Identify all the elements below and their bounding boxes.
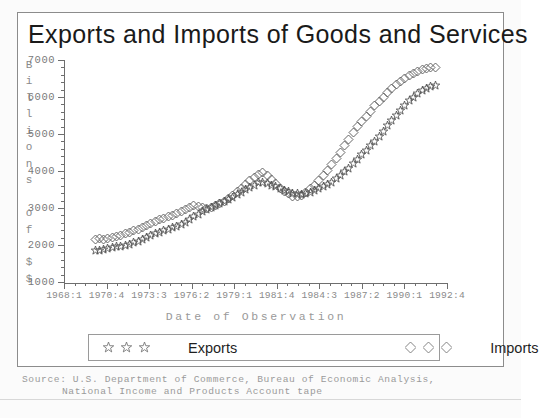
y-axis-minor-tick [61, 267, 64, 268]
data-point-imports [327, 160, 336, 169]
x-axis-tick-label: 1979:1 [216, 290, 252, 301]
data-point-imports [142, 221, 151, 230]
data-point-imports [91, 235, 100, 244]
data-point-imports [250, 173, 259, 182]
data-point-exports [340, 167, 349, 176]
data-point-imports [426, 63, 435, 72]
diamond-marker [441, 339, 452, 357]
x-axis-minor-tick [213, 283, 214, 286]
data-point-exports [172, 222, 181, 231]
legend-entry-exports[interactable]: Exports [103, 339, 237, 357]
data-point-exports [198, 207, 207, 216]
x-axis-tick [192, 283, 193, 289]
data-point-exports [366, 141, 375, 150]
x-axis-tick-label: 1970:4 [89, 290, 125, 301]
data-point-exports [344, 164, 353, 173]
data-point-exports [220, 197, 229, 206]
x-axis-minor-tick [309, 283, 310, 286]
data-point-imports [418, 65, 427, 74]
data-point-exports [379, 127, 388, 136]
data-point-exports [233, 190, 242, 199]
x-axis-minor-tick [170, 283, 171, 286]
data-point-exports [241, 185, 250, 194]
data-point-exports [297, 190, 306, 199]
data-point-imports [121, 229, 130, 238]
data-point-exports [207, 203, 216, 212]
data-point-imports [306, 184, 315, 193]
x-axis-minor-tick [256, 283, 257, 286]
x-axis-tick [404, 283, 405, 289]
source-line-1: Source: U.S. Department of Commerce, Bur… [22, 374, 435, 385]
data-point-imports [125, 228, 134, 237]
data-point-exports [362, 146, 371, 155]
diamond-marker [405, 339, 416, 357]
x-axis-title: Date of Observation [64, 310, 448, 323]
data-point-exports [418, 86, 427, 95]
x-axis-tick-label: 1973:3 [131, 290, 167, 301]
data-point-imports [237, 184, 246, 193]
data-point-imports [267, 175, 276, 184]
data-point-imports [362, 112, 371, 121]
data-point-exports [258, 178, 267, 187]
y-axis-minor-tick [61, 104, 64, 105]
data-point-exports [280, 186, 289, 195]
data-point-exports [254, 178, 263, 187]
y-axis-minor-tick [61, 215, 64, 216]
data-point-imports [146, 219, 155, 228]
y-axis-tick [58, 60, 64, 61]
star-icon [103, 339, 150, 357]
x-axis-tick-label: 1992:4 [429, 290, 465, 301]
y-axis-tick-label: 6000 [28, 91, 55, 103]
data-point-imports [396, 77, 405, 86]
chart-legend: ExportsImports [88, 334, 440, 361]
data-point-imports [413, 67, 422, 76]
x-axis-tick [234, 283, 235, 289]
data-point-imports [155, 215, 164, 224]
data-point-imports [353, 122, 362, 131]
data-point-imports [336, 148, 345, 157]
data-point-imports [280, 187, 289, 196]
x-axis-minor-tick [202, 283, 203, 286]
data-point-imports [310, 181, 319, 190]
x-axis-tick [447, 283, 448, 289]
data-point-exports [413, 89, 422, 98]
y-axis-minor-tick [61, 67, 64, 68]
data-point-imports [276, 184, 285, 193]
source-line-2: National Income and Products Account tap… [22, 386, 502, 398]
data-point-imports [189, 201, 198, 210]
data-point-imports [314, 176, 323, 185]
data-point-exports [129, 238, 138, 247]
data-point-imports [245, 176, 254, 185]
x-axis-minor-tick [224, 283, 225, 286]
y-axis-minor-tick [61, 238, 64, 239]
data-point-imports [409, 69, 418, 78]
data-point-imports [258, 168, 267, 177]
data-point-exports [327, 178, 336, 187]
data-point-imports [383, 88, 392, 97]
y-axis-label-char: l [26, 109, 33, 120]
data-point-imports [228, 191, 237, 200]
legend-entry-imports[interactable]: Imports [405, 339, 538, 357]
data-point-imports [134, 225, 143, 234]
y-axis-minor-tick [61, 201, 64, 202]
x-axis-tick-label: 1990:1 [387, 290, 423, 301]
y-axis-tick-label: 3000 [28, 202, 55, 214]
y-axis-minor-tick [61, 75, 64, 76]
data-point-exports [336, 171, 345, 180]
data-point-imports [224, 194, 233, 203]
data-point-exports [370, 137, 379, 146]
y-axis-minor-tick [61, 164, 64, 165]
data-point-imports [392, 80, 401, 89]
page-title: Exports and Imports of Goods and Service… [28, 20, 493, 54]
data-point-exports [95, 246, 104, 255]
y-axis-label-char: f [26, 225, 33, 236]
y-axis-tick-label: 1000 [28, 276, 55, 288]
y-axis-tick [58, 134, 64, 135]
y-axis-minor-tick [61, 275, 64, 276]
data-point-imports [332, 154, 341, 163]
x-axis-minor-tick [436, 283, 437, 286]
data-point-exports [383, 121, 392, 130]
data-point-imports [366, 107, 375, 116]
data-point-imports [340, 141, 349, 150]
data-point-imports [400, 74, 409, 83]
